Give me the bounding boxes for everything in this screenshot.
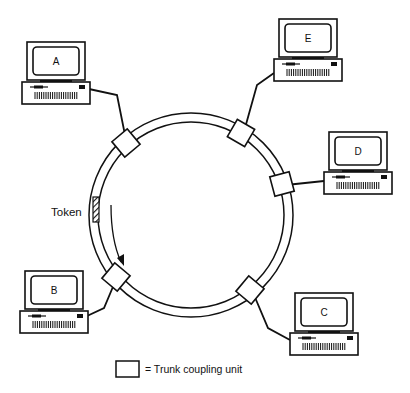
station-a-label: A <box>53 56 60 67</box>
station-b: B <box>20 271 88 333</box>
coupling-unit-b <box>102 263 130 291</box>
cables <box>87 73 324 340</box>
station-d: D <box>324 132 392 194</box>
station-a: A <box>22 42 90 104</box>
station-b-label: B <box>51 285 58 296</box>
station-c-label: C <box>320 307 327 318</box>
station-d-label: D <box>354 146 361 157</box>
trunk-coupling-units <box>102 119 294 304</box>
coupling-unit-d <box>270 172 294 196</box>
token-icon <box>93 197 99 222</box>
station-e-label: E <box>305 33 312 44</box>
cable-c <box>254 295 290 340</box>
station-c: C <box>290 293 358 355</box>
coupling-unit-e <box>227 119 254 146</box>
station-e: E <box>274 19 342 81</box>
token-label: Token <box>51 206 82 218</box>
token-ring-diagram: Token A E D B C = Trunk coupling unit <box>0 0 410 393</box>
token-direction-arrow <box>111 205 121 262</box>
token: Token <box>51 197 124 266</box>
cable-a <box>89 89 126 140</box>
legend-text: = Trunk coupling unit <box>145 363 242 375</box>
cable-b <box>87 282 115 316</box>
legend-coupling-unit-symbol <box>116 361 139 377</box>
coupling-unit-a <box>112 129 140 157</box>
coupling-unit-c <box>236 276 264 304</box>
legend: = Trunk coupling unit <box>116 361 242 377</box>
cable-e <box>245 73 274 128</box>
